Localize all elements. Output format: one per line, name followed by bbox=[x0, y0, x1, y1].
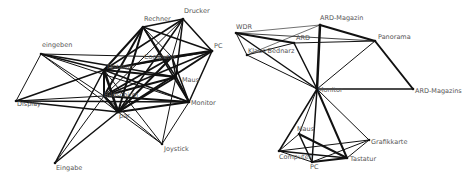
node-ard-magazins bbox=[412, 88, 415, 91]
node-rechner bbox=[142, 26, 145, 29]
node-label-ard: ARD bbox=[296, 34, 310, 42]
edge-eingeben-bildschirm bbox=[41, 54, 104, 96]
edge-panorama-monitor bbox=[317, 41, 375, 89]
node-label-monitor: Monitor bbox=[318, 86, 343, 94]
edge-klaus-bednarz-monitor bbox=[247, 55, 317, 89]
node-label-panorama: Panorama bbox=[378, 33, 411, 41]
node-drucker bbox=[182, 18, 185, 21]
node-tastatur bbox=[103, 69, 106, 72]
edge-panorama-ard-magazins bbox=[375, 41, 413, 89]
node-pc bbox=[211, 50, 214, 53]
node-monitor bbox=[188, 101, 191, 104]
node-label-rechner: Rechner bbox=[144, 15, 171, 23]
node-grafikkarte bbox=[368, 139, 371, 142]
edge-monitor-par bbox=[118, 102, 189, 112]
edge-monitor-tastatur bbox=[317, 89, 347, 158]
node-label-grafikkarte: Grafikkarte bbox=[371, 138, 407, 146]
node-label-par: par bbox=[119, 112, 130, 120]
node-label-eingeben: eingeben bbox=[42, 41, 72, 49]
node-computer bbox=[278, 150, 281, 153]
right-graph: WDRARD-MagazinARDKlaus BednarzPanoramaAR… bbox=[235, 14, 463, 171]
edge-eingeben-tastatur bbox=[41, 54, 104, 70]
node-label-maus: Maus bbox=[182, 76, 200, 84]
semantic-network-diagram: RechnerDruckerPCeingebenComputerTastatur… bbox=[0, 0, 465, 179]
node-label-ard-magazins: ARD-Magazins bbox=[415, 87, 462, 95]
node-eingeben bbox=[40, 53, 43, 56]
node-label-drucker: Drucker bbox=[184, 7, 210, 15]
node-label-tastatur: Tastatur bbox=[349, 155, 376, 163]
node-label-bildschirm: Bildschirm bbox=[104, 91, 138, 99]
node-label-joystick: Joystick bbox=[163, 145, 189, 153]
node-label-pc: PC bbox=[214, 42, 223, 50]
node-panorama bbox=[374, 40, 377, 43]
node-label-eingabe: Eingabe bbox=[56, 164, 82, 172]
edge-monitor-computer bbox=[279, 89, 317, 151]
node-label-pc: PC bbox=[310, 163, 319, 171]
edge-monitor-grafikkarte bbox=[317, 89, 369, 140]
node-ard-magazin bbox=[319, 24, 322, 27]
node-tastatur bbox=[346, 157, 349, 160]
node-wdr bbox=[235, 32, 238, 35]
node-maus bbox=[175, 76, 178, 79]
node-joystick bbox=[161, 143, 164, 146]
edge-ard-monitor bbox=[294, 43, 317, 89]
node-label-computer: Computer bbox=[279, 153, 312, 161]
node-label-wdr: WDR bbox=[236, 23, 252, 31]
node-label-maus: Maus bbox=[297, 125, 315, 133]
edge-ard-magazin-monitor bbox=[317, 25, 320, 89]
node-label-display: Display bbox=[17, 100, 41, 108]
node-label-tastatur: Tastatur bbox=[105, 63, 132, 71]
node-maus bbox=[298, 133, 301, 136]
node-ard bbox=[293, 42, 296, 45]
node-label-computer: Computer bbox=[144, 53, 177, 61]
node-label-monitor: Monitor bbox=[191, 99, 216, 107]
node-label-ard-magazin: ARD-Magazin bbox=[320, 14, 363, 22]
left-graph: RechnerDruckerPCeingebenComputerTastatur… bbox=[15, 7, 223, 172]
node-label-klaus-bednarz: Klaus Bednarz bbox=[248, 47, 295, 55]
